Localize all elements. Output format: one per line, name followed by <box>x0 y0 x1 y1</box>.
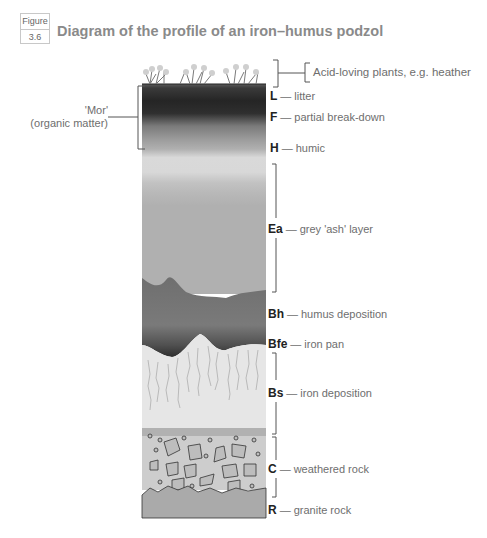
mor-title: 'Mor' <box>20 104 108 117</box>
horizon-label-H: H—humic <box>270 141 325 155</box>
mor-label: 'Mor' (organic matter) <box>20 104 108 130</box>
horizon-label-R: R—granite rock <box>268 503 351 517</box>
horizon-label-Bs: Bs—iron deposition <box>268 386 372 400</box>
horizon-label-Ea: Ea—grey 'ash' layer <box>268 222 373 236</box>
mor-subtitle: (organic matter) <box>20 117 108 130</box>
horizon-label-L: L—litter <box>270 89 315 103</box>
heather-plants-icon <box>146 68 258 84</box>
upper-horizons <box>142 84 266 294</box>
plants-label: Acid-loving plants, e.g. heather <box>313 66 471 78</box>
horizon-label-Bfe: Bfe—iron pan <box>268 337 344 351</box>
r-layer <box>142 486 266 518</box>
soil-profile-diagram <box>0 0 487 538</box>
horizon-label-C: C—weathered rock <box>268 462 369 476</box>
horizon-label-F: F—partial break-down <box>270 110 385 124</box>
horizon-label-Bh: Bh—humus deposition <box>268 307 387 321</box>
